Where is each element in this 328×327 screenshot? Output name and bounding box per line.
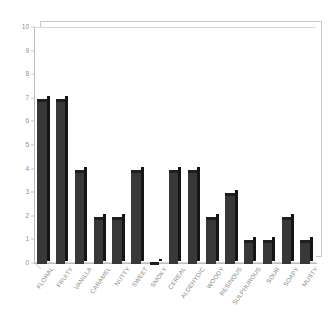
y-tick-label: 7 [25,95,29,102]
y-tick-label: 8 [25,71,29,78]
bar[interactable] [131,170,141,264]
bar[interactable] [188,170,198,264]
bar-side-face [122,214,125,261]
bar-side-face [235,190,238,261]
x-tick-label: SMOKY [150,266,168,288]
bar-slot [244,27,254,264]
y-tick-label: 9 [25,47,29,54]
bar-slot [206,27,216,264]
bar-slot [112,27,122,264]
bar-side-face [197,167,200,261]
bar-side-face [159,259,162,262]
y-tick-label: 1 [25,236,29,243]
bar-top-face [37,99,47,102]
bar-slot [75,27,85,264]
bar[interactable] [225,193,235,264]
bar-top-face [225,193,235,196]
y-tick-label: 0 [25,260,29,267]
x-tick-label: FLORAL [36,266,55,290]
x-tick-label: MUSTY [301,266,319,288]
bar-slot [263,27,273,264]
bar[interactable] [37,99,47,264]
bar-slot [282,27,292,264]
x-tick-label: NUTTY [113,266,130,287]
bar-top-face [112,217,122,220]
x-axis-tick-labels: FLORALFRUITYVANILLACARAMELNUTTYSWEETSMOK… [34,266,322,327]
y-tick-label: 2 [25,213,29,220]
bar[interactable] [112,217,122,264]
x-tick-label: SOUR [265,266,281,285]
bar-top-face [94,217,104,220]
bar-side-face [141,167,144,261]
bar-slot [56,27,66,264]
bar-side-face [103,214,106,261]
bar-slot [37,27,47,264]
y-tick-label: 10 [22,24,29,31]
bars-container [34,27,316,264]
bar-side-face [291,214,294,261]
bar-slot [150,27,160,264]
bar-top-face [131,170,141,173]
bar-slot [94,27,104,264]
y-tick-label: 6 [25,118,29,125]
bar-chart: 012345678910 FLORALFRUITYVANILLACARAMELN… [0,0,328,327]
bar-slot [300,27,310,264]
bar-top-face [150,262,160,265]
bar-slot [169,27,179,264]
bar[interactable] [282,217,292,264]
y-tick-label: 5 [25,142,29,149]
bar[interactable] [150,262,160,265]
bar-top-face [188,170,198,173]
bar-top-face [169,170,179,173]
x-tick-label: FRUITY [56,266,74,289]
y-tick-label: 3 [25,189,29,196]
bar[interactable] [75,170,85,264]
bar[interactable] [300,240,310,264]
bar-slot [131,27,141,264]
bar-side-face [310,237,313,261]
y-tick-label: 4 [25,165,29,172]
bar[interactable] [169,170,179,264]
bar[interactable] [206,217,216,264]
bar-side-face [84,167,87,261]
bar-top-face [56,99,66,102]
bar[interactable] [263,240,273,264]
bar-top-face [206,217,216,220]
bar-slot [188,27,198,264]
bar-top-face [263,240,273,243]
bar-side-face [178,167,181,261]
bar-slot [225,27,235,264]
x-tick-label: SWEET [131,266,149,288]
bar-side-face [216,214,219,261]
bar[interactable] [56,99,66,264]
bar-top-face [282,217,292,220]
bar-top-face [244,240,254,243]
bar-top-face [300,240,310,243]
bar-side-face [253,237,256,261]
plot-area: 012345678910 [34,21,322,264]
bar[interactable] [244,240,254,264]
bar-side-face [65,96,68,261]
x-tick-label: SOAPY [282,266,300,288]
bar[interactable] [94,217,104,264]
bar-side-face [272,237,275,261]
bar-side-face [47,96,50,261]
bar-top-face [75,170,85,173]
